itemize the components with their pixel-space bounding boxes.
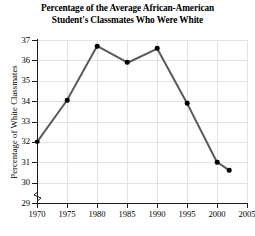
y-axis-tick: [32, 40, 37, 41]
x-axis-tick-label: 1990: [140, 209, 174, 219]
x-axis-tick-label: 2005: [230, 209, 255, 219]
y-axis-tick: [32, 81, 37, 82]
y-axis-tick-label: 30: [14, 177, 30, 187]
gridline-horizontal: [37, 183, 247, 184]
gridline-vertical: [187, 40, 188, 203]
data-point: [95, 44, 100, 49]
data-point: [155, 46, 160, 51]
y-axis-tick: [32, 183, 37, 184]
gridline-horizontal: [37, 60, 247, 61]
gridline-horizontal: [37, 142, 247, 143]
y-axis-tick-label: 35: [14, 75, 30, 85]
y-axis-tick-label: 37: [14, 35, 30, 45]
chart-title: Percentage of the Average African-Americ…: [0, 3, 255, 26]
x-axis-tick: [247, 203, 248, 208]
x-axis-tick: [97, 203, 98, 208]
gridline-vertical: [157, 40, 158, 203]
axis-break-icon: [33, 188, 42, 202]
x-axis-tick-label: 1980: [80, 209, 114, 219]
x-axis-tick-label: 1995: [170, 209, 204, 219]
y-axis-tick: [32, 122, 37, 123]
x-axis-tick-label: 2000: [200, 209, 234, 219]
x-axis-tick: [157, 203, 158, 208]
y-axis-line: [37, 39, 38, 204]
y-axis-tick-label: 33: [14, 116, 30, 126]
data-point: [65, 98, 70, 103]
x-axis-tick: [127, 203, 128, 208]
gridline-vertical: [67, 40, 68, 203]
plot-area: [37, 40, 247, 203]
y-axis-tick: [32, 60, 37, 61]
y-axis-tick-label: 32: [14, 136, 30, 146]
chart-title-line-1: Percentage of the Average African-Americ…: [0, 3, 255, 15]
data-point: [35, 140, 40, 145]
y-axis-tick-label: 34: [14, 96, 30, 106]
data-point: [125, 60, 130, 65]
y-axis-tick-label: 36: [14, 55, 30, 65]
x-axis-tick: [37, 203, 38, 208]
gridline-vertical: [97, 40, 98, 203]
data-point: [215, 160, 220, 165]
x-axis-tick: [217, 203, 218, 208]
y-axis-tick-label: 31: [14, 157, 30, 167]
x-axis-tick: [187, 203, 188, 208]
data-point: [185, 101, 190, 106]
chart-title-line-2: Student's Classmates Who Were White: [0, 15, 255, 27]
y-axis-tick: [32, 162, 37, 163]
x-axis-tick-label: 1975: [50, 209, 84, 219]
x-axis-tick-label: 1970: [20, 209, 54, 219]
gridline-horizontal: [37, 40, 247, 41]
y-axis-tick: [32, 101, 37, 102]
y-axis-tick-label: 29: [14, 198, 30, 208]
gridline-horizontal: [37, 122, 247, 123]
x-axis-tick-label: 1985: [110, 209, 144, 219]
x-axis-tick: [67, 203, 68, 208]
data-point: [227, 168, 232, 173]
gridline-vertical: [247, 40, 248, 203]
gridline-vertical: [217, 40, 218, 203]
gridline-horizontal: [37, 81, 247, 82]
chart-container: Percentage of the Average African-Americ…: [0, 0, 255, 236]
